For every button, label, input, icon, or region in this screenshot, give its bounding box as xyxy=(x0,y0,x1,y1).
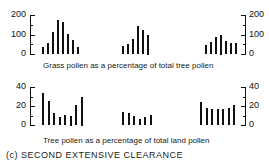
right-axis-tick xyxy=(241,125,246,126)
bar-middle xyxy=(139,119,141,125)
bar-left xyxy=(57,20,59,54)
left-axis-label: 200 xyxy=(8,10,26,19)
bar-left xyxy=(48,101,50,125)
bar-left xyxy=(42,47,44,54)
left-axis-tick xyxy=(30,54,35,55)
bar-left xyxy=(70,116,72,126)
left-axis-tick xyxy=(30,106,35,107)
grass-chart-caption: Grass pollen as a percentage of total tr… xyxy=(43,61,213,70)
bar-middle xyxy=(147,35,149,55)
left-axis-label: 0 xyxy=(8,49,26,58)
right-axis-tick xyxy=(241,15,246,16)
bar-right xyxy=(228,108,230,125)
right-axis-tick xyxy=(243,44,246,45)
left-axis-tick xyxy=(30,44,33,45)
bar-right xyxy=(217,109,219,125)
bar-middle xyxy=(142,30,144,54)
bar-right xyxy=(211,109,213,125)
bar-middle xyxy=(122,46,124,54)
bar-left xyxy=(67,34,69,54)
bar-left xyxy=(42,93,44,125)
left-axis-label: 0 xyxy=(8,120,26,129)
bar-middle xyxy=(127,44,129,54)
bar-middle xyxy=(150,115,152,125)
bar-right xyxy=(215,37,217,54)
bar-left xyxy=(52,32,54,54)
bar-left xyxy=(64,115,66,125)
bar-right xyxy=(206,108,208,125)
left-axis-label: 40 xyxy=(8,82,26,91)
bar-middle xyxy=(133,116,135,125)
bar-right xyxy=(200,102,202,125)
right-axis-label: 0 xyxy=(249,120,267,129)
left-axis-tick xyxy=(30,35,35,36)
left-axis-label: 100 xyxy=(8,30,26,39)
tree-chart-caption: Tree pollen as a percentage of total lan… xyxy=(43,136,209,145)
bar-left xyxy=(47,43,49,54)
bar-middle xyxy=(132,39,134,54)
bar-left xyxy=(59,117,61,125)
right-axis-tick xyxy=(241,35,246,36)
left-axis-tick xyxy=(30,97,33,98)
bar-left xyxy=(75,105,77,125)
left-axis-tick xyxy=(30,15,35,16)
right-axis-tick xyxy=(241,54,246,55)
right-axis-label: 40 xyxy=(249,82,267,91)
bar-right xyxy=(222,109,224,125)
left-axis-tick xyxy=(30,116,33,117)
right-axis-label: 100 xyxy=(249,30,267,39)
bar-left xyxy=(62,22,64,54)
left-axis-label: 20 xyxy=(8,101,26,110)
bar-middle xyxy=(137,26,139,54)
right-axis-label: 200 xyxy=(249,10,267,19)
bar-right xyxy=(205,45,207,54)
bar-left xyxy=(77,47,79,54)
bar-right xyxy=(225,41,227,54)
right-axis-tick xyxy=(243,25,246,26)
bar-right xyxy=(230,43,232,54)
left-axis-tick xyxy=(30,25,33,26)
bar-middle xyxy=(128,113,130,125)
left-axis-tick xyxy=(30,87,35,88)
right-axis-tick xyxy=(243,116,246,117)
bar-right xyxy=(233,105,235,125)
right-axis-tick xyxy=(243,97,246,98)
bar-middle xyxy=(144,117,146,125)
bar-left xyxy=(72,40,74,54)
right-axis-label: 20 xyxy=(249,101,267,110)
bar-middle xyxy=(122,112,124,125)
left-axis-tick xyxy=(30,125,35,126)
right-axis-label: 0 xyxy=(249,49,267,58)
bar-right xyxy=(220,35,222,55)
right-axis-tick xyxy=(241,87,246,88)
right-axis-tick xyxy=(241,106,246,107)
bar-right xyxy=(235,43,237,54)
bar-left xyxy=(81,97,83,126)
bar-left xyxy=(53,113,55,125)
bar-right xyxy=(210,42,212,54)
panel-title: (c) SECOND EXTENSIVE CLEARANCE xyxy=(6,150,183,160)
